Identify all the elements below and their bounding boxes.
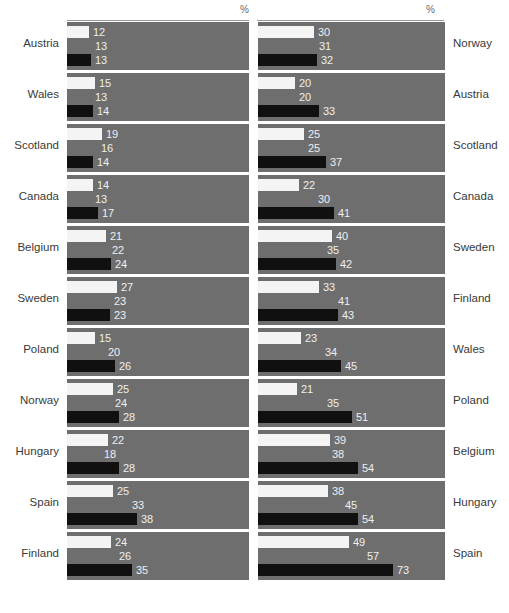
bar-series-1	[258, 332, 301, 344]
bar-series-2	[67, 142, 97, 154]
bar-value-label: 37	[330, 156, 342, 168]
bar-series-2	[258, 499, 341, 511]
bar-value-label: 23	[114, 295, 126, 307]
bar-series-2	[258, 142, 304, 154]
category-label: Norway	[20, 394, 59, 406]
chart-row: Canada223041	[257, 175, 509, 226]
bar-value-label: 20	[108, 346, 120, 358]
bar-series-3	[258, 513, 358, 525]
axis-rule-left	[67, 20, 249, 21]
bar-series-1	[258, 383, 297, 395]
bar-value-label: 13	[95, 193, 107, 205]
category-label: Spain	[453, 547, 482, 559]
bar-value-label: 26	[119, 550, 131, 562]
bar-series-3	[67, 513, 137, 525]
bar-series-2	[67, 550, 115, 562]
bar-series-1	[67, 128, 102, 140]
chart-row: Hungary221828	[0, 430, 249, 481]
bar-series-1	[258, 230, 332, 242]
bar-series-3	[258, 564, 393, 576]
bar-value-label: 22	[303, 179, 315, 191]
bar-series-1	[67, 179, 93, 191]
bar-value-label: 13	[95, 54, 107, 66]
bar-series-3	[258, 105, 319, 117]
bar-value-label: 19	[106, 128, 118, 140]
chart-row: Canada141317	[0, 175, 249, 226]
bar-value-label: 45	[345, 360, 357, 372]
bar-series-2	[67, 448, 100, 460]
bar-value-label: 43	[342, 309, 354, 321]
bar-series-1	[258, 281, 319, 293]
bar-value-label: 35	[136, 564, 148, 576]
chart-row: Austria121313	[0, 22, 249, 73]
bar-value-label: 13	[95, 91, 107, 103]
bar-value-label: 26	[119, 360, 131, 372]
bar-series-2	[258, 550, 363, 562]
bar-value-label: 28	[123, 411, 135, 423]
bar-value-label: 21	[110, 230, 122, 242]
bar-series-2	[258, 397, 323, 409]
category-label: Sweden	[17, 292, 59, 304]
chart-row: Scotland252537	[257, 124, 509, 175]
bar-series-3	[67, 258, 111, 270]
bar-value-label: 18	[104, 448, 116, 460]
bar-series-3	[67, 462, 119, 474]
bar-value-label: 45	[345, 499, 357, 511]
chart-row: Poland213551	[257, 379, 509, 430]
bar-value-label: 12	[93, 26, 105, 38]
bar-value-label: 33	[323, 281, 335, 293]
bar-series-1	[258, 536, 349, 548]
category-label: Norway	[453, 37, 492, 49]
category-label: Wales	[453, 343, 485, 355]
bar-series-2	[258, 40, 315, 52]
bar-value-label: 42	[340, 258, 352, 270]
bar-series-3	[258, 156, 326, 168]
bar-value-label: 35	[327, 397, 339, 409]
chart-row: Spain495773	[257, 532, 509, 583]
chart-row: Norway303132	[257, 22, 509, 73]
chart-panel-left: Austria121313Wales151314Scotland191614Ca…	[0, 22, 249, 611]
chart-row: Hungary384554	[257, 481, 509, 532]
bar-value-label: 17	[102, 207, 114, 219]
chart-row: Spain253338	[0, 481, 249, 532]
bar-series-3	[67, 207, 98, 219]
bar-series-1	[258, 26, 314, 38]
bar-value-label: 14	[97, 105, 109, 117]
bar-series-2	[258, 346, 321, 358]
chart-row: Sweden272323	[0, 277, 249, 328]
bar-series-1	[67, 77, 95, 89]
bar-value-label: 54	[362, 513, 374, 525]
bar-value-label: 13	[95, 40, 107, 52]
bar-value-label: 20	[299, 91, 311, 103]
category-label: Spain	[30, 496, 59, 508]
bar-series-3	[258, 207, 334, 219]
axis-rule-right	[257, 20, 444, 21]
row-separator	[258, 580, 445, 583]
bar-series-3	[67, 105, 93, 117]
bar-value-label: 33	[323, 105, 335, 117]
bar-value-label: 38	[332, 485, 344, 497]
bar-value-label: 30	[318, 26, 330, 38]
category-label: Austria	[23, 37, 59, 49]
category-label: Canada	[19, 190, 59, 202]
bar-series-2	[258, 448, 328, 460]
category-label: Hungary	[453, 496, 496, 508]
chart-row: Finland334143	[257, 277, 509, 328]
bar-value-label: 49	[353, 536, 365, 548]
axis-unit-label-left: %	[240, 4, 249, 15]
bar-series-2	[67, 193, 91, 205]
category-label: Belgium	[453, 445, 495, 457]
bar-series-3	[67, 360, 115, 372]
bar-value-label: 34	[325, 346, 337, 358]
chart-row: Belgium212224	[0, 226, 249, 277]
bar-value-label: 33	[132, 499, 144, 511]
category-label: Sweden	[453, 241, 495, 253]
bar-value-label: 30	[318, 193, 330, 205]
category-label: Austria	[453, 88, 489, 100]
bar-series-3	[67, 156, 93, 168]
chart-row: Poland152026	[0, 328, 249, 379]
bar-series-2	[258, 244, 323, 256]
category-label: Poland	[23, 343, 59, 355]
bar-value-label: 25	[308, 128, 320, 140]
bar-value-label: 21	[301, 383, 313, 395]
